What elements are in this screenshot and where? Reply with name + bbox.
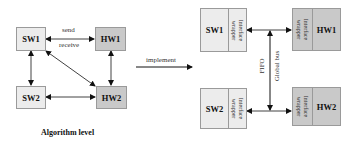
impl-node-hw2: HW2 xyxy=(312,87,341,126)
impl-node-sw2-label: SW2 xyxy=(206,104,223,114)
edge-label-send: send xyxy=(62,26,75,34)
algorithm-level-title: Algorithm level xyxy=(41,128,94,137)
impl-node-sw1: SW1 xyxy=(200,8,229,52)
edge-label-receive: receive xyxy=(59,41,79,49)
alg-node-hw2-label: HW2 xyxy=(102,93,121,103)
global-bus-label: Global bus xyxy=(273,51,281,82)
impl-node-hw1: HW1 xyxy=(312,8,341,51)
impl-hw2-interface-wrapper: Interface wrapper xyxy=(292,87,313,126)
impl-node-sw1-label: SW1 xyxy=(206,25,223,35)
implement-label: implement xyxy=(146,56,176,64)
impl-node-sw2: SW2 xyxy=(200,88,229,129)
impl-hw1-interface-wrapper: Interface wrapper xyxy=(292,8,313,51)
edge-sw1-hw2 xyxy=(46,51,95,86)
fifo-label: FIFO xyxy=(258,58,266,73)
alg-node-hw1-label: HW1 xyxy=(101,34,120,44)
impl-sw2-wrapper-label: Interface wrapper xyxy=(231,98,244,119)
impl-node-hw2-label: HW2 xyxy=(317,102,336,112)
alg-node-sw2: SW2 xyxy=(16,86,46,109)
impl-hw1-wrapper-label: Interface wrapper xyxy=(296,19,309,40)
alg-node-sw2-label: SW2 xyxy=(22,93,39,103)
alg-node-hw1: HW1 xyxy=(95,27,126,51)
impl-sw2-interface-wrapper: Interface wrapper xyxy=(228,88,247,129)
impl-hw2-wrapper-label: Interface wrapper xyxy=(296,96,309,117)
impl-sw1-interface-wrapper: Interface wrapper xyxy=(228,8,247,52)
alg-node-sw1: SW1 xyxy=(16,27,46,51)
impl-node-hw1-label: HW1 xyxy=(317,25,336,35)
impl-sw1-wrapper-label: Interface wrapper xyxy=(231,19,244,40)
alg-node-sw1-label: SW1 xyxy=(22,34,39,44)
alg-node-hw2: HW2 xyxy=(96,86,127,109)
